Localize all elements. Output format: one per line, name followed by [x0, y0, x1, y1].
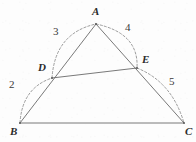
vertex-dot-B	[19, 122, 21, 124]
side-BA	[20, 24, 96, 123]
figure-canvas	[0, 0, 196, 142]
vertex-dots	[19, 23, 185, 124]
dashed-arcs	[20, 24, 184, 123]
solid-edges	[20, 24, 184, 123]
arc-label-AE: 4	[125, 22, 131, 33]
vertex-label-A: A	[92, 6, 99, 17]
vertex-label-C: C	[185, 126, 192, 137]
arc-label-BD: 2	[9, 79, 15, 90]
vertex-label-E: E	[142, 54, 149, 65]
side-AC	[96, 24, 184, 123]
vertex-dot-D	[51, 77, 53, 79]
vertex-dot-E	[136, 67, 138, 69]
vertex-dot-C	[183, 122, 185, 124]
arc-label-EC: 5	[169, 76, 175, 87]
segment-DE	[52, 68, 137, 78]
arc-label-DA: 3	[53, 26, 59, 37]
vertex-label-B: B	[10, 126, 17, 137]
geometry-figure: A B C D E 2 3 4 5	[0, 0, 196, 142]
vertex-label-D: D	[38, 62, 46, 73]
vertex-dot-A	[95, 23, 97, 25]
